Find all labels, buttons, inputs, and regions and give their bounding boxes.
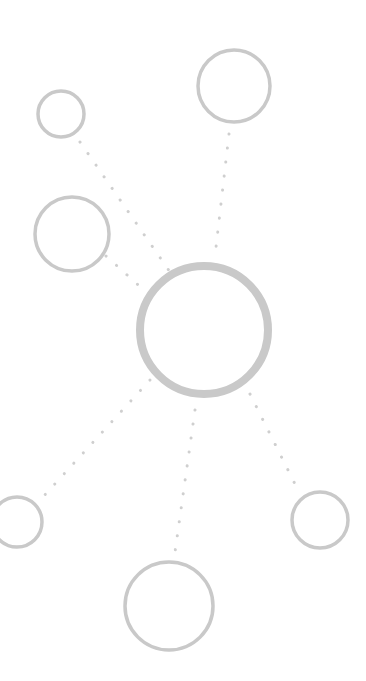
node-bottom-right-circle [292,492,348,548]
link-top-right-dotted-line [215,134,229,256]
network-diagram [0,0,366,681]
link-bottom-left-dotted-line [42,380,150,498]
node-bottom-circle [125,562,213,650]
node-left-middle-circle [35,197,109,271]
node-group [0,50,348,650]
node-bottom-left-circle [0,497,42,547]
link-bottom-right-dotted-line [250,394,298,490]
node-top-left-small-circle [38,91,84,137]
link-bottom-dotted-line [175,410,195,552]
link-top-left-small-dotted-line [80,142,170,272]
link-left-middle-dotted-line [106,256,146,292]
node-top-right-circle [198,50,270,122]
hub-circle [140,266,268,394]
